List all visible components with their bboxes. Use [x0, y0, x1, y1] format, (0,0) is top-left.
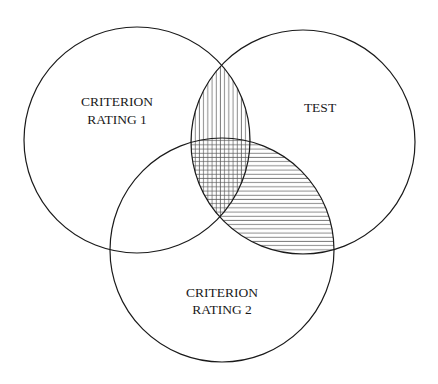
label-criterion2-line1: CRITERION	[186, 285, 258, 300]
venn-diagram: CRITERION RATING 1 TEST CRITERION RATING…	[0, 0, 438, 384]
region-test-criterion2	[0, 0, 438, 384]
label-criterion2-line2: RATING 2	[192, 302, 252, 317]
label-criterion1-line1: CRITERION	[81, 94, 153, 109]
label-criterion1-line2: RATING 1	[87, 112, 147, 127]
label-test: TEST	[304, 100, 337, 115]
